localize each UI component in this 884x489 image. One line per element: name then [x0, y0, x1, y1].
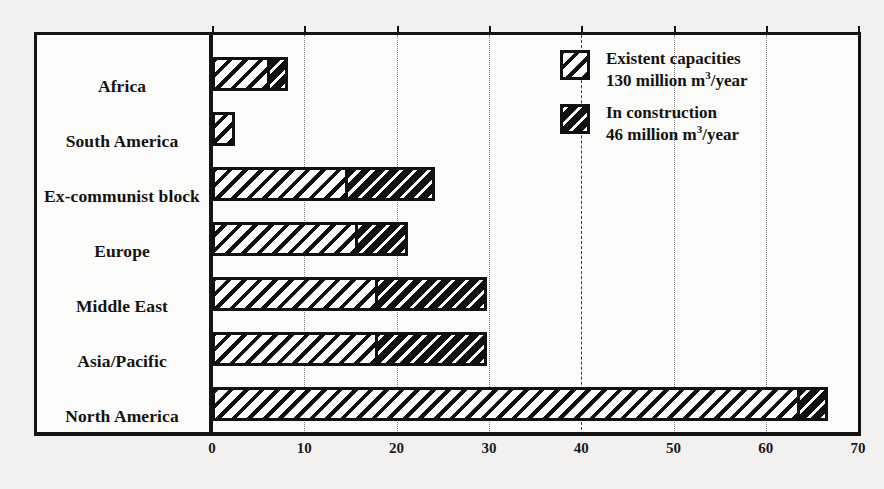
legend-swatch-construction-icon	[560, 104, 590, 134]
category-label-asia-pacific: Asia/Pacific	[34, 351, 210, 372]
tick-mark-50	[674, 26, 676, 35]
bar-segment-existent-asia-pacific	[212, 332, 378, 366]
bar-row-europe	[212, 222, 408, 256]
legend-value-existent-number: 130 million m	[606, 71, 705, 90]
x-tick-label-30: 30	[481, 440, 496, 457]
bar-segment-construction-africa	[267, 57, 288, 91]
bar-segment-existent-middle-east	[212, 277, 378, 311]
category-label-middle-east: Middle East	[34, 296, 210, 317]
bar-row-north-america	[212, 387, 828, 421]
x-tick-label-50: 50	[666, 440, 681, 457]
legend-text-existent: Existent capacities 130 million m3/year	[606, 48, 850, 92]
legend-entry-existent-capacities: Existent capacities 130 million m3/year	[560, 48, 850, 94]
tick-mark-10	[304, 26, 306, 35]
legend-label-existent: Existent capacities	[606, 48, 850, 70]
category-axis-labels: Africa South America Ex-communist block …	[34, 32, 210, 432]
tick-mark-20	[397, 26, 399, 35]
tick-mark-0	[212, 26, 214, 35]
category-label-europe: Europe	[34, 241, 210, 262]
legend-swatch-existent-icon	[560, 50, 590, 80]
bar-segment-existent-africa	[212, 57, 270, 91]
legend-entry-in-construction: In construction 46 million m3/year	[560, 102, 850, 148]
legend-value-construction-number: 46 million m	[606, 125, 697, 144]
bar-segment-existent-north-america	[212, 387, 800, 421]
x-tick-label-40: 40	[574, 440, 589, 457]
x-tick-label-10: 10	[297, 440, 312, 457]
bar-segment-existent-south-america	[212, 112, 235, 146]
legend-label-construction: In construction	[606, 102, 850, 124]
x-tick-label-20: 20	[389, 440, 404, 457]
bar-row-asia-pacific	[212, 332, 487, 366]
bar-row-ex-communist-block	[212, 167, 435, 201]
bar-row-africa	[212, 57, 288, 91]
bar-segment-construction-europe	[355, 222, 408, 256]
bar-segment-construction-north-america	[797, 387, 828, 421]
gridline-30	[489, 35, 491, 435]
category-label-africa: Africa	[34, 76, 210, 97]
bar-segment-construction-ex-communist-block	[345, 167, 436, 201]
x-tick-label-0: 0	[208, 440, 216, 457]
x-tick-label-70: 70	[851, 440, 866, 457]
legend-value-existent-suffix: /year	[711, 71, 748, 90]
bar-segment-existent-ex-communist-block	[212, 167, 348, 201]
legend-value-existent: 130 million m3/year	[606, 70, 850, 92]
tick-mark-70	[858, 26, 860, 35]
tick-mark-30	[489, 26, 491, 35]
category-label-south-america: South America	[34, 131, 210, 152]
legend-value-construction: 46 million m3/year	[606, 124, 850, 146]
tick-mark-60	[766, 26, 768, 35]
category-label-north-america: North America	[34, 406, 210, 427]
tick-mark-40	[581, 26, 583, 35]
x-axis-line	[34, 432, 861, 436]
legend-value-construction-suffix: /year	[702, 125, 739, 144]
bar-segment-existent-europe	[212, 222, 358, 256]
legend-text-construction: In construction 46 million m3/year	[606, 102, 850, 146]
bar-segment-construction-middle-east	[375, 277, 487, 311]
bar-row-south-america	[212, 112, 235, 146]
legend: Existent capacities 130 million m3/year …	[560, 48, 850, 156]
x-tick-label-60: 60	[758, 440, 773, 457]
bar-segment-construction-asia-pacific	[375, 332, 487, 366]
category-label-ex-communist-block: Ex-communist block	[34, 186, 210, 207]
desalination-capacity-bar-chart: Africa South America Ex-communist block …	[0, 0, 884, 489]
bar-row-middle-east	[212, 277, 487, 311]
